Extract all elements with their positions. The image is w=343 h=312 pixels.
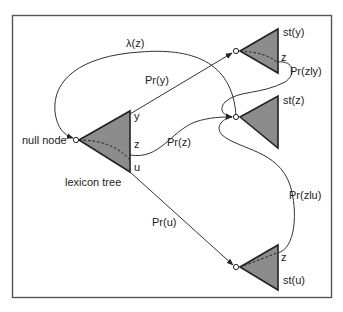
label-pr-z: Pr(z): [167, 136, 191, 148]
label-st-z: st(z): [283, 94, 304, 106]
label-pr-z-given-y: Pr(zly): [290, 65, 322, 77]
null-node-circle: [73, 137, 78, 142]
lexicon-tree: [79, 111, 130, 172]
st-u-node-circle: [233, 264, 238, 269]
edge-pr-u: [130, 172, 233, 265]
edge-pr-z-given-u: [219, 117, 294, 253]
label-pr-z-given-u: Pr(zlu): [289, 189, 321, 201]
subtree-st-y: [240, 29, 278, 73]
label-lexicon-tree: lexicon tree: [65, 176, 121, 188]
label-st-u: st(u): [283, 274, 305, 286]
label-st-y: st(y): [283, 26, 304, 38]
label-pr-y: Pr(y): [145, 74, 169, 86]
label-st-y-branch-z: z: [281, 51, 287, 63]
edge-lambda: [55, 51, 236, 138]
st-y-node-circle: [233, 48, 238, 53]
label-st-u-branch-z: z: [281, 251, 287, 263]
st-z-node-circle: [233, 114, 238, 119]
label-branch-y: y: [134, 110, 140, 122]
label-branch-u: u: [134, 161, 140, 173]
diagram-canvas: null node lexicon tree st(y) st(z) st(u)…: [0, 0, 343, 312]
label-lambda: λ(z): [126, 37, 144, 49]
label-pr-u: Pr(u): [152, 216, 176, 228]
subtree-st-u: [240, 245, 278, 290]
subtree-st-z: [240, 96, 278, 148]
label-null-node: null node: [22, 134, 67, 146]
label-branch-z: z: [134, 138, 140, 150]
